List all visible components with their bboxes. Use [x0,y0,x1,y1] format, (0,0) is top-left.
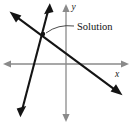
solution-label: Solution [77,21,113,32]
line-positive-slope-segment [22,11,48,110]
line-positive-slope-upper-arrowhead [44,3,54,14]
x-axis-left-arrowhead [3,60,11,67]
line-negative-slope-upper-arrowhead [10,12,22,23]
graph-canvas: Solution y x [0,0,132,125]
solution-point-dot [41,32,45,36]
coordinate-graph-figure: Solution y x [0,0,132,125]
solution-leader-line [46,26,74,33]
x-axis-right-arrowhead [121,60,129,67]
y-axis-bottom-arrowhead [62,114,69,122]
x-axis-label: x [114,69,120,79]
y-axis [62,4,69,122]
line-negative-slope-lower-arrowhead [111,84,123,95]
y-axis-top-arrowhead [62,4,69,12]
y-axis-label: y [71,2,77,12]
line-positive-slope-lower-arrowhead [17,106,27,117]
